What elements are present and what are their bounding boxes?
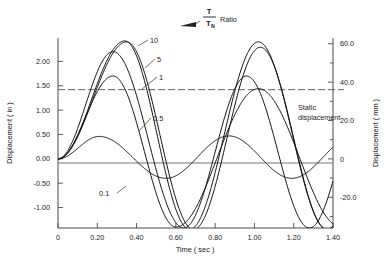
- left-axis-ticks: [58, 61, 63, 207]
- curve-0.5: [58, 76, 333, 227]
- static-displacement-annotation: Static displacement: [298, 103, 340, 122]
- left-tick-label: 0.50: [36, 130, 50, 139]
- x-tick-label: 0.80: [208, 233, 222, 242]
- left-tick-label: -0.50: [34, 179, 50, 188]
- curve-label-0.1: 0.1: [99, 189, 109, 198]
- x-axis-title: Time ( sec ): [176, 245, 215, 254]
- x-axis-tick-labels: 00.200.400.600.801.001.201.40: [56, 233, 340, 242]
- curve-label-0.5: 0.5: [153, 114, 163, 123]
- static-label-line2: displacement: [298, 113, 340, 122]
- ratio-suffix-label: Ratio: [220, 15, 237, 24]
- y-axis-title-right: Displacement ( mm ): [371, 99, 380, 167]
- static-label-line1: Static: [298, 103, 316, 112]
- curve-group: [58, 41, 333, 230]
- right-tick-label: -20.0: [340, 193, 356, 202]
- ratio-numerator: T: [207, 7, 212, 16]
- chart-figure: 2.001.501.000.500.00-0.50-1.00 60.040.02…: [0, 0, 389, 269]
- x-tick-label: 1.40: [326, 233, 340, 242]
- leader-line-05: [139, 118, 151, 131]
- left-tick-label: 1.00: [36, 106, 50, 115]
- leader-line-01: [117, 186, 126, 193]
- ratio-arrow-tail: [196, 21, 200, 24]
- x-tick-label: 0.60: [169, 233, 183, 242]
- x-tick-label: 0: [56, 233, 60, 242]
- displacement-vs-time-chart: 2.001.501.000.500.00-0.50-1.00 60.040.02…: [0, 0, 389, 269]
- curve-label-10: 10: [150, 36, 158, 45]
- right-tick-label: 20.0: [340, 116, 354, 125]
- left-tick-label: 0.00: [36, 154, 50, 163]
- right-tick-label: 60.0: [340, 39, 354, 48]
- ratio-denominator-subscript: N: [211, 23, 215, 29]
- curve-label-5: 5: [157, 55, 161, 64]
- leader-line-5: [145, 59, 155, 68]
- left-axis-tick-labels: 2.001.501.000.500.00-0.50-1.00: [34, 57, 50, 212]
- curve-0.1: [58, 136, 333, 178]
- right-tick-label: 40.0: [340, 78, 354, 87]
- left-tick-label: 1.50: [36, 81, 50, 90]
- x-tick-label: 0.20: [90, 233, 104, 242]
- left-tick-label: -1.00: [34, 203, 50, 212]
- left-tick-label: 2.00: [36, 57, 50, 66]
- right-axis-tick-labels: 60.040.020.00-20.0: [340, 39, 356, 202]
- x-tick-label: 1.00: [247, 233, 261, 242]
- x-tick-label: 1.20: [287, 233, 301, 242]
- y-axis-title: Displacement ( in ): [5, 102, 14, 164]
- right-tick-label: 0: [340, 155, 344, 164]
- curve-label-1: 1: [159, 73, 163, 82]
- x-tick-label: 0.40: [130, 233, 144, 242]
- ratio-annotation: T T N Ratio: [180, 7, 237, 29]
- ratio-arrow-icon: [180, 22, 196, 27]
- leader-line-10: [138, 40, 148, 46]
